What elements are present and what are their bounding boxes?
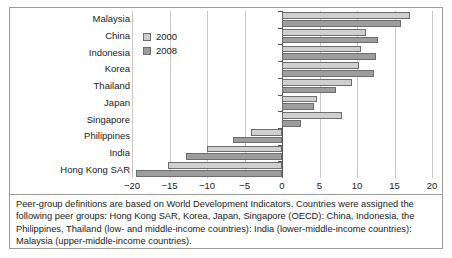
legend-item-2008: 2008 [143, 44, 223, 58]
value-tick-label: 0 [267, 180, 297, 191]
bar [233, 137, 282, 144]
chart-legend: 2000 2008 [143, 30, 223, 58]
gridline [132, 11, 133, 178]
category-label: Hong Kong SAR [10, 165, 130, 175]
category-label: Singapore [10, 115, 130, 125]
bar [282, 37, 378, 44]
bar [282, 62, 359, 69]
category-axis-labels: MalaysiaChinaIndonesiaKoreaThailandJapan… [10, 11, 130, 181]
legend-label-2008: 2008 [156, 46, 177, 56]
bar [282, 87, 336, 94]
category-label: Indonesia [10, 48, 130, 58]
bar [282, 46, 361, 53]
category-label: Thailand [10, 81, 130, 91]
value-tick-label: −10 [192, 180, 222, 191]
category-label: Japan [10, 98, 130, 108]
footnote-text: Peer-group definitions are based on Worl… [16, 198, 436, 248]
gridline [432, 11, 433, 178]
category-label: Malaysia [10, 14, 130, 24]
value-tick-label: 10 [342, 180, 372, 191]
bar [136, 170, 282, 177]
gridline [395, 11, 396, 178]
value-tick-label: 5 [305, 180, 335, 191]
legend-label-2000: 2000 [156, 32, 177, 42]
value-tick-label: −15 [155, 180, 185, 191]
bar [207, 146, 282, 153]
value-tick-label: −5 [230, 180, 260, 191]
value-tick-label: −20 [117, 180, 147, 191]
bar [168, 162, 282, 169]
category-label: Philippines [10, 131, 130, 141]
bar [282, 53, 376, 60]
bar [186, 153, 282, 160]
value-tick-label: 20 [417, 180, 447, 191]
bar [282, 29, 366, 36]
bar [282, 12, 410, 19]
legend-swatch-2000-icon [143, 33, 151, 41]
bar [282, 79, 352, 86]
bar [282, 70, 374, 77]
bar [251, 129, 283, 136]
bar [282, 20, 401, 27]
legend-item-2000: 2000 [143, 30, 223, 44]
legend-swatch-2008-icon [143, 47, 151, 55]
category-label: India [10, 148, 130, 158]
chart-area: MalaysiaChinaIndonesiaKoreaThailandJapan… [10, 8, 442, 186]
footnote-divider [10, 194, 442, 195]
value-tick-label: 15 [380, 180, 410, 191]
bar [282, 96, 317, 103]
bar [282, 120, 301, 127]
category-label: Korea [10, 64, 130, 74]
footnote: Peer-group definitions are based on Worl… [16, 198, 436, 248]
figure-panel: MalaysiaChinaIndonesiaKoreaThailandJapan… [9, 7, 443, 249]
category-label: China [10, 31, 130, 41]
bar [282, 103, 314, 110]
bar [282, 112, 342, 119]
